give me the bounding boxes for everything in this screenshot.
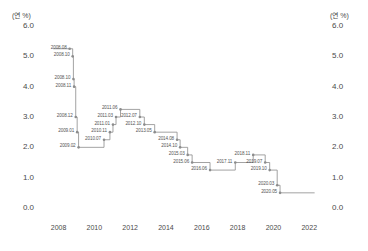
step-line-plot xyxy=(0,0,368,251)
point-label-2015-06-18: 2015.06 xyxy=(166,160,189,165)
point-label-2009-02-6: 2009.02 xyxy=(53,144,76,149)
point-label-2013-05-14: 2013.05 xyxy=(129,129,152,134)
data-point-marker xyxy=(112,123,115,126)
data-point-marker xyxy=(252,154,255,157)
data-point-marker xyxy=(264,161,267,164)
data-point-marker xyxy=(153,131,156,134)
data-point-marker xyxy=(279,192,282,195)
point-label-2008-11-3: 2008.11 xyxy=(48,84,71,89)
data-point-marker xyxy=(68,47,71,50)
point-label-2011-01-9: 2011.01 xyxy=(87,122,110,127)
data-point-marker xyxy=(276,184,279,187)
point-label-2019-10-23: 2019.10 xyxy=(244,167,267,172)
data-point-marker xyxy=(234,161,237,164)
point-label-2010-11-8: 2010.11 xyxy=(84,129,107,134)
data-point-marker xyxy=(179,146,182,149)
data-point-marker xyxy=(191,161,194,164)
point-label-2008-08-0: 2008.08 xyxy=(44,46,67,51)
point-label-2008-10-1: 2008.10 xyxy=(47,53,70,58)
data-point-marker xyxy=(76,131,79,134)
interest-rate-step-chart: (연 %) (연 %) 6.05.04.03.02.01.00.0 6.05.0… xyxy=(0,0,368,251)
point-label-2010-07-7: 2010.07 xyxy=(78,137,101,142)
point-label-2020-05-25: 2020.05 xyxy=(254,190,277,195)
point-label-2014-08-15: 2014.08 xyxy=(151,137,174,142)
point-label-2008-12-4: 2008.12 xyxy=(50,114,73,119)
data-point-marker xyxy=(119,108,122,111)
point-label-2012-07-12: 2012.07 xyxy=(114,114,137,119)
point-label-2018-11-21: 2018.11 xyxy=(227,152,250,157)
point-label-2009-01-5: 2009.01 xyxy=(51,129,74,134)
point-label-2011-03-10: 2011.03 xyxy=(90,114,113,119)
data-point-marker xyxy=(109,131,112,134)
data-point-marker xyxy=(186,154,189,157)
point-label-2012-10-13: 2012.10 xyxy=(118,122,141,127)
point-label-2016-06-19: 2016.06 xyxy=(184,167,207,172)
data-point-marker xyxy=(139,116,142,119)
data-point-marker xyxy=(103,138,106,141)
point-label-2015-03-17: 2015.03 xyxy=(162,152,185,157)
point-label-2017-11-20: 2017.11 xyxy=(209,160,232,165)
point-label-2020-03-24: 2020.03 xyxy=(251,182,274,187)
data-point-marker xyxy=(74,116,77,119)
data-point-marker xyxy=(268,169,271,172)
data-point-marker xyxy=(71,55,74,58)
data-point-marker xyxy=(143,123,146,126)
point-label-2011-06-11: 2011.06 xyxy=(94,106,117,111)
data-point-marker xyxy=(176,138,179,141)
point-label-2008-10-2: 2008.10 xyxy=(47,76,70,81)
point-label-2014-10-16: 2014.10 xyxy=(154,144,177,149)
data-point-marker xyxy=(209,169,212,172)
data-point-marker xyxy=(72,78,75,81)
point-label-2019-07-22: 2019.07 xyxy=(239,160,262,165)
data-point-marker xyxy=(73,85,76,88)
data-point-marker xyxy=(77,146,80,149)
